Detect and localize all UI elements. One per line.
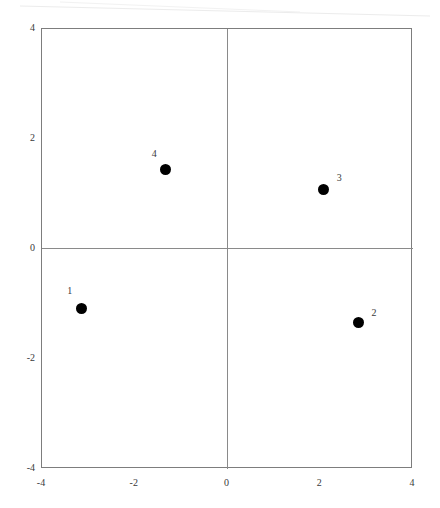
data-point-marker (76, 303, 87, 314)
scan-artifact-streak (0, 0, 440, 24)
x-tick-label: -2 (130, 478, 138, 488)
y-tick-label: -2 (27, 353, 35, 363)
y-tick-label: 0 (30, 243, 35, 253)
data-point-marker (160, 164, 171, 175)
x-tick-label: 4 (410, 478, 415, 488)
y-tick-label: 4 (30, 23, 35, 33)
y-tick-label: 2 (30, 133, 35, 143)
x-tick-label: -4 (37, 478, 45, 488)
data-point-label: 3 (337, 173, 342, 183)
y-tick-label: -4 (27, 463, 35, 473)
x-axis-zero-line (42, 248, 413, 249)
x-tick-label: 2 (317, 478, 322, 488)
data-point-marker (318, 184, 329, 195)
data-point-label: 4 (152, 149, 157, 159)
x-tick-label: 0 (224, 478, 229, 488)
plot-area: 1234 (41, 28, 412, 468)
data-point-marker (353, 317, 364, 328)
y-axis-zero-line (227, 29, 228, 469)
data-point-label: 2 (372, 308, 377, 318)
scatter-plot-figure: 1234 420-2-4 -4-2024 (0, 0, 440, 508)
data-point-label: 1 (67, 286, 72, 296)
